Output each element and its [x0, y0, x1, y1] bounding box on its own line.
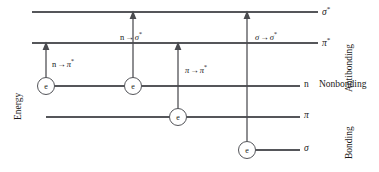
- transition-label-pi-to-pi-star: π→π*: [185, 64, 207, 74]
- level-star: *: [327, 5, 331, 13]
- electron-sigma: e: [239, 142, 256, 159]
- level-symbol: n: [304, 79, 309, 89]
- transition-arrow-glyph: →: [56, 59, 67, 69]
- level-label-sigma-star: σ*: [322, 6, 330, 18]
- transition-arrow-pi-to-pi-star: [175, 42, 182, 118]
- mo-transitions-diagram: e e e e Energy σ* π* n π σ n→π* n→σ* π→π…: [0, 0, 379, 172]
- level-symbol: π: [304, 110, 309, 120]
- transition-to-star: *: [204, 63, 207, 70]
- transition-to-star: *: [274, 30, 277, 37]
- electron-n-2: e: [125, 78, 142, 95]
- level-star: *: [327, 36, 331, 44]
- electron-pi: e: [170, 109, 187, 126]
- electron-glyph: e: [176, 113, 180, 122]
- electron-markers: e e e e: [38, 78, 256, 159]
- transition-label-n-to-sigma-star: n→σ*: [120, 31, 142, 41]
- level-symbol: σ: [304, 143, 309, 153]
- group-label-nonbonding: Nonbonding: [319, 80, 367, 90]
- electron-glyph: e: [131, 82, 135, 91]
- transition-arrow-n-to-sigma-star: [130, 11, 137, 87]
- level-label-n: n: [304, 80, 309, 90]
- group-label-bonding: Bonding: [345, 126, 355, 159]
- energy-axis-label: Energy: [14, 93, 24, 120]
- transition-arrow-glyph: →: [124, 32, 135, 42]
- transition-arrow-glyph: →: [189, 65, 200, 75]
- electron-glyph: e: [245, 146, 249, 155]
- transition-arrow-sigma-to-sigma-star: [244, 11, 251, 151]
- level-label-sigma: σ: [304, 144, 309, 154]
- electron-n-1: e: [38, 78, 55, 95]
- transition-arrow-glyph: →: [259, 32, 270, 42]
- transition-to-star: *: [139, 30, 142, 37]
- transition-label-n-to-pi-star: n→π*: [52, 58, 74, 68]
- level-label-pi-star: π*: [322, 37, 330, 49]
- transition-label-sigma-to-sigma-star: σ→σ*: [255, 31, 277, 41]
- transition-arrows: [43, 11, 251, 151]
- level-label-pi: π: [304, 111, 309, 121]
- transition-to-star: *: [71, 57, 74, 64]
- electron-glyph: e: [44, 82, 48, 91]
